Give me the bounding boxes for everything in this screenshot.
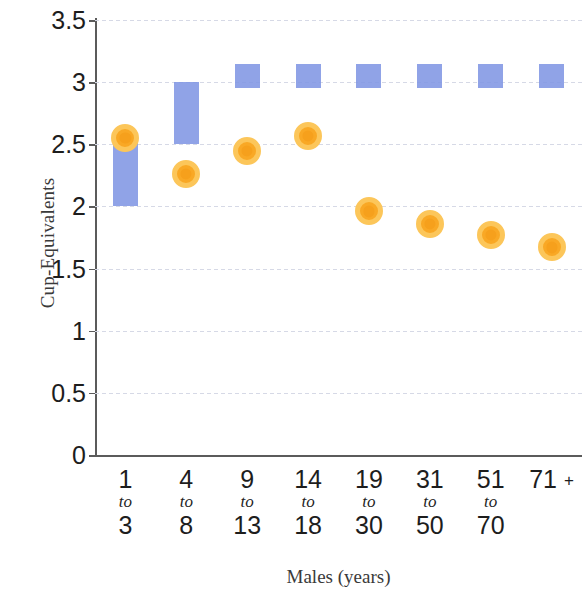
range-bar bbox=[296, 64, 321, 89]
x-axis-tick-label: 9to13 bbox=[214, 466, 280, 538]
x-axis-tick-label: 31to50 bbox=[397, 466, 463, 538]
x-label-to: to bbox=[336, 493, 402, 511]
x-label-to: to bbox=[275, 493, 341, 511]
gridline bbox=[95, 393, 582, 394]
x-label-from: 9 bbox=[214, 466, 280, 492]
y-axis-tick-label: 3 bbox=[72, 68, 86, 97]
data-point-marker bbox=[538, 233, 566, 261]
x-axis-tick-label: 1to3 bbox=[92, 466, 158, 538]
range-bar bbox=[235, 64, 260, 89]
x-label-from: 51 bbox=[458, 466, 524, 492]
range-bar bbox=[417, 64, 442, 89]
plot-area: 00.511.522.533.5 bbox=[95, 20, 582, 457]
x-label-from: 31 bbox=[397, 466, 463, 492]
data-point-marker bbox=[294, 122, 322, 150]
tick-mark bbox=[89, 269, 95, 271]
tick-mark bbox=[89, 144, 95, 146]
x-label-until: 8 bbox=[153, 512, 219, 538]
data-point-marker bbox=[111, 124, 139, 152]
x-label-until: 18 bbox=[275, 512, 341, 538]
x-axis-tick-label: 71 + bbox=[519, 466, 582, 492]
x-label-from: 71 + bbox=[519, 466, 582, 492]
data-point-marker bbox=[172, 160, 200, 188]
gridline bbox=[95, 206, 582, 207]
x-label-until: 13 bbox=[214, 512, 280, 538]
x-label-from: 4 bbox=[153, 466, 219, 492]
y-axis-tick-label: 3.5 bbox=[51, 6, 86, 35]
x-axis-tick-label: 19to30 bbox=[336, 466, 402, 538]
y-axis-tick-label: 2 bbox=[72, 192, 86, 221]
y-axis-tick-label: 2.5 bbox=[51, 130, 86, 159]
gridline bbox=[95, 82, 582, 83]
x-label-to: to bbox=[397, 493, 463, 511]
x-label-until: 3 bbox=[92, 512, 158, 538]
tick-mark bbox=[89, 82, 95, 84]
range-bar bbox=[539, 64, 564, 89]
gridline bbox=[95, 20, 582, 21]
x-axis-tick-label: 14to18 bbox=[275, 466, 341, 538]
data-point-marker bbox=[233, 137, 261, 165]
tick-mark bbox=[89, 20, 95, 22]
tick-mark bbox=[89, 455, 95, 457]
x-label-from: 19 bbox=[336, 466, 402, 492]
tick-mark bbox=[89, 206, 95, 208]
x-label-from: 1 bbox=[92, 466, 158, 492]
y-axis-tick-label: 0.5 bbox=[51, 378, 86, 407]
gridline bbox=[95, 144, 582, 145]
y-axis-tick-label: 1 bbox=[72, 316, 86, 345]
x-label-until: 50 bbox=[397, 512, 463, 538]
data-point-marker bbox=[355, 197, 383, 225]
y-axis-tick-label: 0 bbox=[72, 441, 86, 470]
gridline bbox=[95, 331, 582, 332]
x-label-to: to bbox=[458, 493, 524, 511]
x-label-until: 70 bbox=[458, 512, 524, 538]
data-point-marker bbox=[416, 210, 444, 238]
data-point-marker bbox=[477, 221, 505, 249]
x-label-from: 14 bbox=[275, 466, 341, 492]
x-axis-tick-label: 51to70 bbox=[458, 466, 524, 538]
range-bar bbox=[356, 64, 381, 89]
x-label-to: to bbox=[153, 493, 219, 511]
tick-mark bbox=[89, 331, 95, 333]
x-label-to: to bbox=[92, 493, 158, 511]
y-axis-tick-label: 1.5 bbox=[51, 254, 86, 283]
x-label-to: to bbox=[214, 493, 280, 511]
chart-figure: Cup-Equivalents 00.511.522.533.5 1to34to… bbox=[0, 0, 582, 596]
range-bar bbox=[478, 64, 503, 89]
x-axis-title: Males (years) bbox=[95, 566, 582, 588]
tick-mark bbox=[89, 393, 95, 395]
range-bar bbox=[174, 82, 199, 144]
gridline bbox=[95, 269, 582, 270]
x-label-until: 30 bbox=[336, 512, 402, 538]
x-axis-tick-label: 4to8 bbox=[153, 466, 219, 538]
